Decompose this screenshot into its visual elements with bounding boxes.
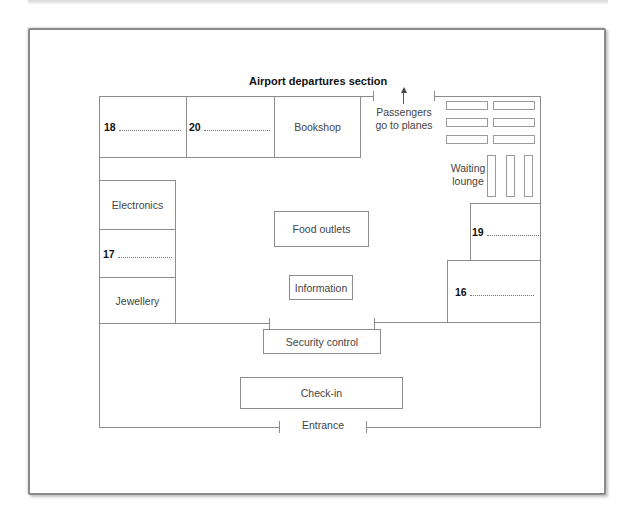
- seat-row: [446, 118, 488, 127]
- waiting-lounge-line-1: Waiting: [448, 162, 488, 175]
- question-20[interactable]: 20: [189, 121, 270, 133]
- seat-row: [493, 118, 535, 127]
- answer-blank[interactable]: [119, 129, 181, 131]
- question-17[interactable]: 17: [103, 248, 172, 260]
- seat-row: [446, 101, 488, 110]
- exit-label: Passengers go to planes: [370, 106, 438, 132]
- seat-column: [487, 155, 496, 197]
- exit-tick-left: [373, 91, 374, 101]
- bottom-wall-left: [99, 427, 279, 428]
- answer-blank[interactable]: [470, 294, 534, 296]
- jewellery: Jewellery: [99, 277, 176, 324]
- information: Information: [289, 275, 353, 300]
- seat-column: [506, 155, 515, 197]
- waiting-lounge-label: Waiting lounge: [448, 162, 488, 188]
- arrow-shaft: [403, 92, 404, 104]
- bottom-wall-right: [366, 427, 541, 428]
- check-in: Check-in: [240, 377, 403, 409]
- question-number: 17: [103, 248, 115, 260]
- bookshop: Bookshop: [274, 96, 361, 158]
- seat-row: [493, 135, 535, 144]
- food-outlets: Food outlets: [274, 211, 369, 247]
- airport-floor-plan: Airport departures section 18 20 Booksho…: [0, 0, 635, 526]
- entrance-tick-left: [279, 421, 280, 433]
- answer-blank[interactable]: [487, 234, 539, 236]
- exit-label-line-1: Passengers: [370, 106, 438, 119]
- seat-column: [524, 155, 533, 197]
- security-control: Security control: [263, 329, 381, 354]
- electronics: Electronics: [99, 180, 176, 230]
- top-wall-right: [434, 96, 541, 97]
- question-number: 18: [104, 121, 116, 133]
- question-19[interactable]: 19: [472, 226, 539, 238]
- seat-row: [446, 135, 488, 144]
- entrance-label: Entrance: [284, 419, 362, 432]
- question-18[interactable]: 18: [104, 121, 181, 133]
- shop-16: 16: [447, 260, 541, 323]
- waiting-lounge-line-2: lounge: [448, 175, 488, 188]
- question-16[interactable]: 16: [455, 286, 534, 298]
- shop-18: 18: [99, 96, 187, 158]
- question-number: 19: [472, 226, 484, 238]
- shop-20: 20: [186, 96, 275, 158]
- seat-row: [493, 101, 535, 110]
- diagram-title: Airport departures section: [249, 75, 387, 87]
- shop-17: 17: [99, 229, 176, 278]
- security-tick-right: [374, 318, 375, 329]
- answer-blank[interactable]: [204, 129, 270, 131]
- question-number: 16: [455, 286, 467, 298]
- shop-19: 19: [470, 203, 541, 261]
- arrow-up-icon: [401, 87, 407, 93]
- security-tick-left: [269, 318, 270, 329]
- question-number: 20: [189, 121, 201, 133]
- answer-blank[interactable]: [118, 256, 172, 258]
- exit-label-line-2: go to planes: [370, 119, 438, 132]
